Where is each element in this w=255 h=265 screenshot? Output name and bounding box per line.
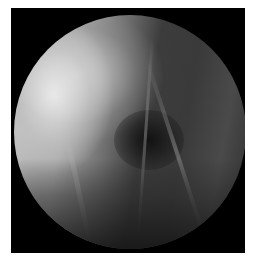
- bottom-shadow: [14, 159, 245, 249]
- image-frame: [11, 8, 245, 253]
- endoscope-field-of-view: [14, 15, 245, 249]
